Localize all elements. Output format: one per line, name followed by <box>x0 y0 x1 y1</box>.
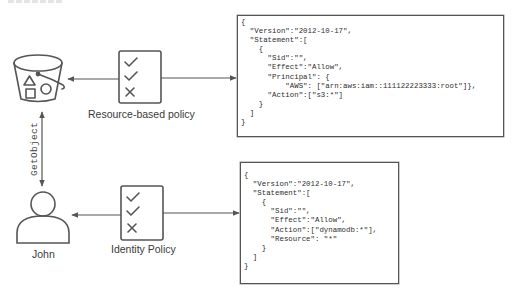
identity-policy-code: { "Version":"2012-10-17", "Statement":[ … <box>241 163 377 271</box>
resource-policy-document: { "Version":"2012-10-17", "Statement":[ … <box>237 15 504 137</box>
resource-policy-checklist-icon <box>119 51 161 103</box>
code-line: "Effect":"Allow", <box>244 216 346 224</box>
code-line: "Version":"2012-10-17", <box>241 27 352 35</box>
code-line: "Statement":[ <box>244 189 311 197</box>
user-icon <box>17 192 69 243</box>
code-line: "Action":["s3:*"] <box>241 91 343 99</box>
code-line: { <box>241 45 263 53</box>
code-line: } <box>244 262 248 270</box>
s3-bucket-icon <box>14 55 64 102</box>
code-line: { <box>241 18 245 26</box>
code-line: } <box>241 100 263 108</box>
code-line: "Sid":"", <box>241 54 308 62</box>
identity-policy-document: { "Version":"2012-10-17", "Statement":[ … <box>240 162 399 284</box>
code-line: "Sid":"", <box>244 207 311 215</box>
code-line: { <box>244 198 266 206</box>
identity-policy-label: Identity Policy <box>111 243 176 255</box>
code-line: } <box>244 244 266 252</box>
code-line: "Statement":[ <box>241 36 308 44</box>
getobject-label: GetObject <box>29 122 40 176</box>
code-line: ] <box>241 109 254 117</box>
user-label: John <box>32 248 55 260</box>
code-line: "Version":"2012-10-17", <box>244 180 355 188</box>
code-line: "Action":["dynamodb:*"], <box>244 226 377 234</box>
code-line: "Effect":"Allow", <box>241 63 343 71</box>
code-line: "Principal": { <box>241 73 330 81</box>
identity-policy-checklist-icon <box>121 186 163 240</box>
code-line: } <box>241 118 245 126</box>
code-line: { <box>244 171 248 179</box>
code-line: ] <box>244 253 257 261</box>
code-line: "Resource": "*" <box>244 235 337 243</box>
resource-policy-label: Resource-based policy <box>88 108 195 120</box>
resource-policy-code: { "Version":"2012-10-17", "Statement":[ … <box>238 16 476 127</box>
code-line: "AWS": ["arn:aws:iam::111122223333:root"… <box>241 82 476 90</box>
